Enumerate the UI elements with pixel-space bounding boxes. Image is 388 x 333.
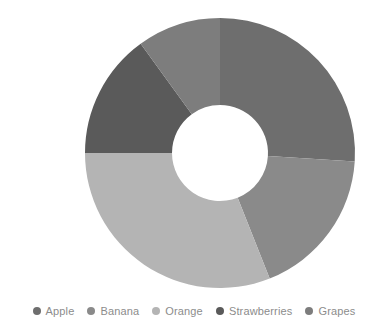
legend-item[interactable]: Banana: [87, 305, 139, 317]
legend-swatch-dot-icon: [33, 307, 41, 315]
legend-item[interactable]: Grapes: [305, 305, 355, 317]
legend-swatch-dot-icon: [152, 307, 160, 315]
chart-plot-area: [0, 0, 388, 300]
legend-swatch-dot-icon: [216, 307, 224, 315]
donut-slice[interactable]: [85, 153, 270, 288]
legend-swatch-dot-icon: [87, 307, 95, 315]
donut-slice[interactable]: [220, 18, 355, 161]
legend-item-label: Banana: [100, 305, 139, 317]
legend-swatch-dot-icon: [305, 307, 313, 315]
legend-item[interactable]: Orange: [152, 305, 203, 317]
legend-item[interactable]: Apple: [33, 305, 75, 317]
donut-chart-figure: AppleBananaOrangeStrawberriesGrapes: [0, 0, 388, 333]
legend-item-label: Grapes: [318, 305, 355, 317]
chart-legend: AppleBananaOrangeStrawberriesGrapes: [0, 299, 388, 323]
legend-item-label: Strawberries: [229, 305, 293, 317]
donut-svg: [0, 0, 388, 300]
legend-item-label: Orange: [165, 305, 203, 317]
legend-item-label: Apple: [46, 305, 75, 317]
donut-slice-group: [85, 18, 355, 288]
legend-item[interactable]: Strawberries: [216, 305, 293, 317]
